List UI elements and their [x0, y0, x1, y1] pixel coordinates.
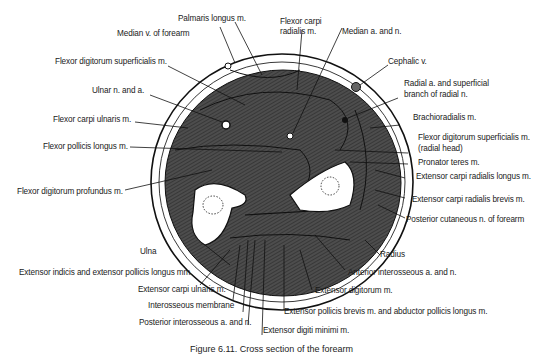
radial-artery: [342, 117, 348, 123]
label-fdp: Flexor digitorum profundus m.: [17, 187, 123, 197]
label-fpl: Flexor pollicis longus m.: [43, 142, 128, 152]
label-ulnar-n-a: Ulnar n. and a.: [92, 86, 144, 96]
label-interosseous-membrane: Interosseous membrane: [148, 301, 234, 311]
label-ecrb: Extensor carpi radialis brevis m.: [412, 195, 525, 205]
label-fcu: Flexor carpi ulnaris m.: [53, 115, 131, 125]
label-radial-a-1: Radial a. and superficial: [404, 79, 489, 89]
label-extensor-indicis: Extensor indicis and extensor pollicis l…: [19, 268, 193, 278]
label-median-v-forearm: Median v. of forearm: [117, 29, 189, 39]
label-radial-a-2: branch of radial n.: [404, 90, 468, 100]
label-extensor-digiti-minimi: Extensor digiti minimi m.: [263, 326, 349, 336]
label-anterior-interosseous: Anterior interosseous a. and n.: [348, 268, 456, 278]
label-posterior-interosseous: Posterior interosseous a. and n.: [139, 318, 251, 328]
label-brachioradialis: Brachioradialis m.: [413, 113, 476, 123]
label-pronator-teres: Pronator teres m.: [418, 158, 480, 168]
median-nerve: [287, 133, 293, 139]
cephalic-vein: [352, 83, 361, 92]
label-median-a-n: Median a. and n.: [342, 27, 401, 37]
label-ecu: Extensor carpi ulnaris m.: [138, 285, 226, 295]
label-extensor-digitorum: Extensor digitorum m.: [315, 286, 393, 296]
median-vein: [225, 63, 231, 69]
label-palmaris-longus: Palmaris longus m.: [178, 14, 246, 24]
figure-caption: Figure 6.11. Cross section of the forear…: [190, 344, 353, 354]
label-cephalic-v: Cephalic v.: [388, 57, 427, 67]
label-ecrl: Extensor carpi radialis longus m.: [416, 172, 531, 182]
label-ulna: Ulna: [140, 247, 156, 257]
ulnar-artery: [222, 121, 230, 129]
label-radius: Radius: [380, 250, 405, 260]
label-fds-radial-2: (radial head): [418, 144, 463, 154]
label-posterior-cutaneous: Posterior cutaneous n. of forearm: [406, 215, 524, 225]
label-fcr-1: Flexor carpi: [280, 17, 322, 27]
label-fds: Flexor digitorum superficialis m.: [55, 57, 167, 67]
label-fds-radial-1: Flexor digitorum superficialis m.: [418, 133, 530, 143]
label-fcr-2: radialis m.: [280, 27, 316, 37]
label-epb-apl: Extensor pollicis brevis m. and abductor…: [284, 307, 487, 317]
